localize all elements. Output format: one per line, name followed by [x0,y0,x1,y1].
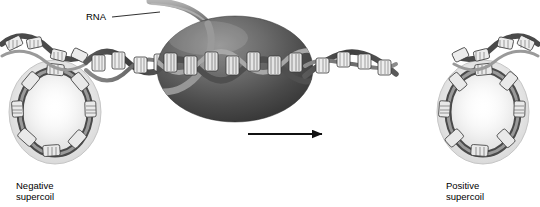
dna-supercoiling-figure: RNA Negative supercoil Positive supercoi… [0,0,540,207]
negative-supercoil-label-line2: supercoil [16,191,54,202]
positive-supercoil-label: Positive supercoil [446,180,484,202]
dna-helix-right-segment [305,52,396,76]
negative-supercoil-label: Negative supercoil [16,180,54,202]
figure-graphics [0,0,540,207]
rna-label: RNA [86,11,106,22]
rna-label-text: RNA [86,11,106,22]
positive-supercoil-label-line2: supercoil [446,191,484,202]
negative-supercoil-label-line1: Negative [16,180,54,191]
rna-leader-line [112,12,160,17]
positive-supercoil-label-line1: Positive [446,180,484,191]
